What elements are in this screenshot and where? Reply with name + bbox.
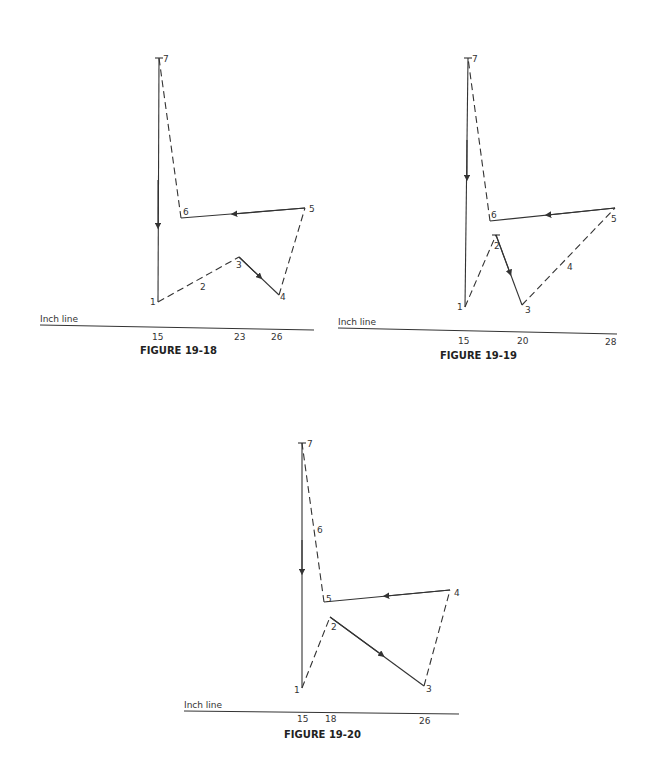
figure-caption: FIGURE 19-20 [284,729,361,740]
figures-canvas: 7 6 5 3 4 1 2 Inch line 15 23 26 FIGURE … [0,0,657,780]
arrow [239,257,260,277]
point-label-3: 3 [525,305,531,315]
tick-label: 26 [271,332,283,342]
segment-6-7 [159,58,181,218]
arrow [548,208,615,215]
figure-caption: FIGURE 19-19 [440,350,517,361]
segment-3-5 [522,208,615,305]
arrow [234,208,305,214]
tick-label: 26 [419,716,431,726]
point-label-6: 6 [491,210,497,220]
figure-caption: FIGURE 19-18 [140,345,217,356]
inch-line [40,325,314,330]
point-label-7: 7 [472,54,478,64]
figure-19-19: 7 6 5 2 3 1 4 Inch line 15 20 28 FIGURE … [338,54,617,361]
segment-1-2 [302,617,330,688]
point-label-3: 3 [236,260,242,270]
point-label-1: 1 [150,297,156,307]
inch-line-label: Inch line [40,314,79,324]
point-label-7: 7 [307,439,313,449]
segment-4-5 [279,208,305,295]
point-label-5: 5 [611,214,617,224]
arrow [386,590,450,596]
point-label-6: 6 [183,207,189,217]
figure-19-20: 7 6 5 4 2 3 1 Inch line 15 18 26 FIGURE … [184,439,460,740]
segment-label-6: 6 [317,525,323,535]
point-label-1: 1 [457,302,463,312]
tick-label: 18 [325,714,337,724]
arrow [330,617,382,655]
point-label-7: 7 [163,54,169,64]
segment-label-2: 2 [200,282,206,292]
segment-label-4: 4 [567,262,573,272]
point-label-2: 2 [331,622,337,632]
point-label-4: 4 [280,292,286,302]
tick-label: 20 [517,336,529,346]
tick-label: 28 [605,337,617,347]
point-label-1: 1 [294,685,300,695]
segment-5-7 [302,443,324,602]
point-label-4: 4 [454,588,460,598]
point-label-5: 5 [309,204,315,214]
tick-label: 15 [152,332,163,342]
point-label-3: 3 [426,684,432,694]
segment-1-3 [158,257,239,302]
tick-label: 15 [458,336,469,346]
inch-line [184,711,459,714]
segment-7-1 [465,58,468,307]
inch-line [338,328,617,334]
segment-6-7 [468,58,490,221]
figure-19-18: 7 6 5 3 4 1 2 Inch line 15 23 26 FIGURE … [40,54,315,356]
tick-label: 15 [297,714,308,724]
segment-3-4 [424,590,450,686]
tick-label: 23 [234,332,245,342]
point-label-2: 2 [494,241,500,251]
inch-line-label: Inch line [338,317,377,327]
segment-1-2 [465,235,496,307]
inch-line-label: Inch line [184,700,223,710]
point-label-5: 5 [326,594,332,604]
